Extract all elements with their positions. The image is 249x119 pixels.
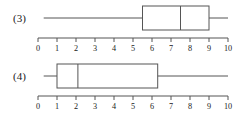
axis-tick-label: 10: [224, 102, 232, 111]
axis-tick-label: 6: [150, 44, 154, 53]
axis-tick-label: 2: [74, 44, 78, 53]
axis-tick-label: 0: [36, 44, 40, 53]
box-iqr: [57, 64, 158, 88]
boxplot-svg-3: 012345678910: [0, 2, 249, 58]
axis-tick-label: 8: [188, 44, 192, 53]
axis-tick-label: 8: [188, 102, 192, 111]
boxplot-canvas-3: 012345678910: [0, 2, 249, 58]
boxplot-canvas-4: 012345678910: [0, 60, 249, 116]
boxplot-panel-3: (3) 012345678910: [0, 2, 249, 58]
axis-tick-label: 5: [131, 44, 135, 53]
axis-tick-label: 2: [74, 102, 78, 111]
axis-tick-label: 0: [36, 102, 40, 111]
boxplot-svg-4: 012345678910: [0, 60, 249, 116]
axis-tick-label: 9: [207, 44, 211, 53]
axis-tick-label: 6: [150, 102, 154, 111]
axis-tick-label: 1: [55, 102, 59, 111]
boxplot-panel-4: (4) 012345678910: [0, 60, 249, 116]
axis-tick-label: 7: [169, 102, 173, 111]
boxplot-figure: (3) 012345678910 (4) 012345678910: [0, 0, 249, 119]
box-iqr: [143, 6, 210, 30]
axis-tick-label: 4: [112, 102, 116, 111]
axis-tick-label: 1: [55, 44, 59, 53]
axis-tick-label: 10: [224, 44, 232, 53]
axis-tick-label: 4: [112, 44, 116, 53]
axis-tick-label: 5: [131, 102, 135, 111]
axis-tick-label: 7: [169, 44, 173, 53]
axis-tick-label: 3: [93, 44, 97, 53]
axis-tick-label: 9: [207, 102, 211, 111]
axis-tick-label: 3: [93, 102, 97, 111]
